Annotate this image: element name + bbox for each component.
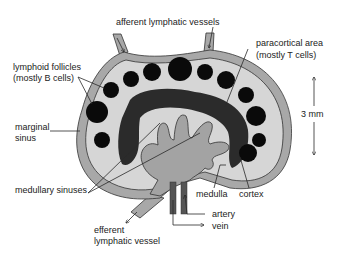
follicle: [252, 133, 266, 147]
marginal-label-2: sinus: [15, 133, 37, 143]
follicle: [197, 64, 213, 80]
lymph-node-diagram: afferent lymphatic vessels lymphoid foll…: [0, 0, 338, 262]
follicle: [217, 71, 235, 89]
follicle: [143, 63, 161, 81]
follicle: [123, 71, 139, 87]
efferent-label-1: efferent: [94, 225, 125, 235]
paracortical-label-1: paracortical area: [256, 38, 323, 48]
follicle: [238, 87, 254, 103]
follicles-label-2: (mostly B cells): [13, 73, 74, 83]
artery-label: artery: [212, 209, 236, 219]
follicle: [239, 144, 257, 162]
follicle: [246, 106, 266, 126]
scale-label: 3 mm: [301, 109, 324, 119]
medulla-label: medulla: [196, 189, 228, 199]
follicle: [86, 101, 108, 123]
follicle: [168, 57, 192, 81]
medullary-label: medullary sinuses: [15, 185, 88, 195]
vein-arrow: [173, 200, 204, 225]
afferent-vessel-right: [204, 33, 214, 52]
cortex-label: cortex: [239, 189, 264, 199]
paracortical-label-2: (mostly T cells): [256, 50, 316, 60]
afferent-label: afferent lymphatic vessels: [116, 17, 220, 27]
follicle: [103, 82, 119, 98]
follicles-label-1: lymphoid follicles: [13, 62, 82, 72]
efferent-label-2: lymphatic vessel: [94, 236, 160, 246]
marginal-label-1: marginal: [15, 122, 50, 132]
efferent-arrow: [126, 212, 137, 223]
vein-label: vein: [212, 221, 229, 231]
follicle: [94, 132, 110, 148]
